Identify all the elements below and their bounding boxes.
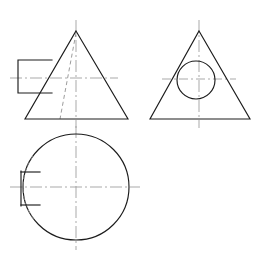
side-bore-circle [177,61,215,99]
top-view-group [10,126,140,250]
top-hidden-arc [23,156,35,221]
side-view-group [150,20,250,128]
front-view-group [10,20,128,128]
front-keyway-boss-outline [18,60,52,93]
drawing-canvas [0,0,261,258]
side-cone-triangle [150,31,250,119]
front-cone-triangle [25,31,128,119]
engineering-drawing-sheet [0,0,261,258]
